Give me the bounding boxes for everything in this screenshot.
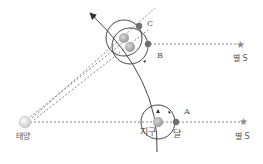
- star-icon: ★: [239, 116, 248, 127]
- point-c-label: C: [147, 20, 153, 28]
- earth-icon: [119, 33, 129, 43]
- earth-icon: [125, 42, 135, 52]
- star-top-label: 별 S: [233, 55, 248, 63]
- moon-icon: [145, 41, 151, 47]
- earth-icon: [153, 117, 163, 127]
- sun-label: 태양: [16, 133, 30, 141]
- moon-label: 달: [173, 130, 181, 139]
- moon-icon: [136, 23, 142, 29]
- point-b-label: B: [157, 52, 163, 60]
- sunlight-lines: [30, 8, 240, 122]
- star-bottom-label: 별 S: [235, 133, 250, 141]
- earth-label: 지구: [140, 128, 156, 137]
- sun-icon: [19, 116, 31, 128]
- moon-icon: [173, 119, 179, 125]
- point-a-label: A: [184, 108, 190, 116]
- star-icon: ★: [236, 39, 245, 50]
- moon-orbit-diagram: ★ ★: [0, 0, 263, 164]
- moon-orbits: [106, 20, 175, 139]
